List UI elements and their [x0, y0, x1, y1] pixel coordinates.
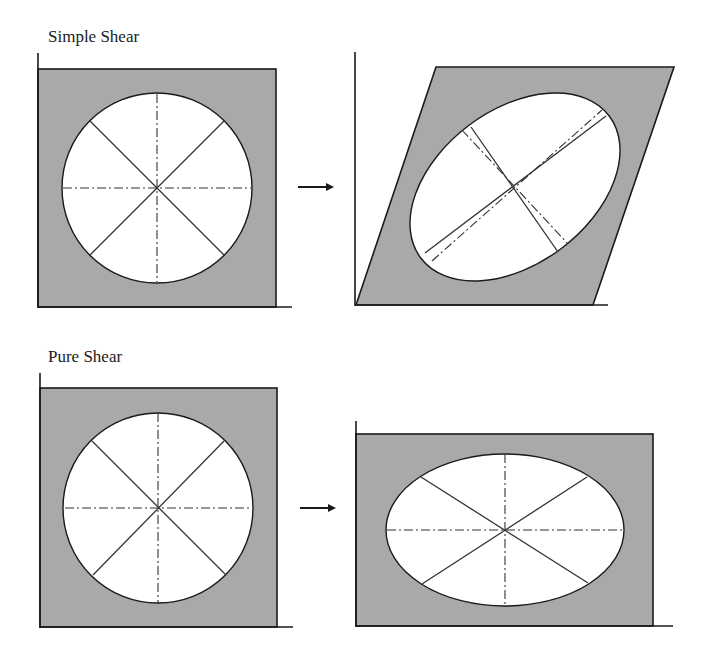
panel-pure-shear-before	[40, 373, 293, 628]
panel-simple-shear-before	[38, 53, 292, 308]
shear-diagram	[0, 0, 713, 654]
panel-simple-shear-after	[355, 52, 674, 320]
panel-pure-shear-after	[356, 421, 673, 627]
